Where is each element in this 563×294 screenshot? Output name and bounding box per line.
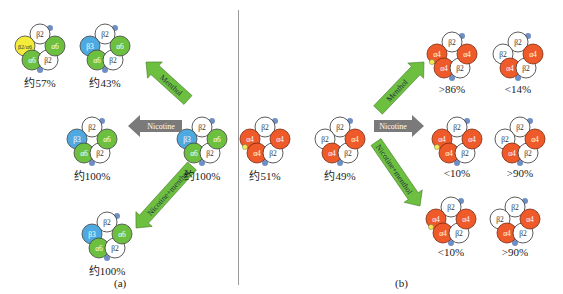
nicotine-arrow-a: Nicotine (128, 115, 182, 137)
subunit-label: β3 (73, 135, 81, 144)
subunit-label: α6 (80, 149, 88, 158)
nicotine-arrow-a-label: Nicotine (147, 122, 175, 131)
subunit-label: α4 (526, 215, 534, 224)
subunit-label: β2 (336, 123, 344, 132)
receptor-a-bottom: β2β3α6β2α6 (82, 212, 132, 261)
percent-label-b-left-1: 约51% (235, 167, 295, 183)
subunit-label: β2 (36, 30, 44, 39)
subunit-label: β2 (511, 203, 519, 212)
receptor-a-mid-left: β2β3α6β2α6 (67, 117, 117, 166)
percent-label-a-bottom: 约100% (77, 262, 137, 278)
ligand-dot-icon (434, 144, 439, 149)
percent-label-a-top-2: 约43% (75, 74, 135, 90)
subunit-label: α4 (328, 149, 336, 158)
subunit-label: β2 (501, 135, 509, 144)
subunit-label: α4 (463, 50, 471, 59)
panel-label-b: (b) (395, 277, 408, 289)
percent-label-b-top-1: >86% (422, 83, 482, 95)
subunit-label: β3 (183, 135, 191, 144)
subunit-label: β2 (88, 123, 96, 132)
percent-label-a-mid-left: 约100% (62, 167, 122, 183)
subunit-label: β2 (499, 50, 507, 59)
percent-label-b-top-2: <14% (488, 83, 548, 95)
subunit-label: α4 (508, 149, 516, 158)
subunit-label: α4 (529, 50, 537, 59)
subunit-label: β2 (461, 149, 469, 158)
subunit-label: α4 (445, 149, 453, 158)
subunit-label: β2 (514, 38, 522, 47)
subunit-label: β2 (198, 123, 206, 132)
subunit-label: α4 (433, 50, 441, 59)
subunit-label: β2 (321, 135, 329, 144)
subunit-label: α4 (438, 135, 446, 144)
subunit-label: β2 (524, 149, 532, 158)
subunit-label: α6 (51, 42, 59, 51)
subunit-label: α4 (351, 135, 359, 144)
subunit-label: β2 (447, 203, 455, 212)
nicotine-arrow-b: Nicotine (374, 115, 424, 137)
percent-label-b-bot-1: <10% (421, 246, 481, 258)
subunit-label: β2 (516, 123, 524, 132)
subunit-label: α6 (103, 135, 111, 144)
menthol-arrow-a: Menthol (139, 54, 196, 108)
subunit-label: β2 (109, 56, 117, 65)
subunit-label: β2 (269, 149, 277, 158)
subunit-label: β2 (206, 149, 214, 158)
subunit-label: α4 (253, 149, 261, 158)
nicotine-menthol-arrow-b-label: Nicotine+menthol (374, 143, 415, 197)
subunit-label: β2 (496, 215, 504, 224)
percent-label-b-mid-1: <10% (427, 167, 487, 179)
subunit-label: α6 (28, 56, 36, 65)
subunit-label: β2 (453, 123, 461, 132)
subunit-label: α6 (95, 244, 103, 253)
receptor-a-mid-right: β2β3α6β2α6 (177, 117, 227, 166)
subunit-label: β2 (101, 30, 109, 39)
subunit-label: α4 (439, 229, 447, 238)
subunit-label: α4 (506, 64, 514, 73)
subunit-label: α4 (276, 135, 284, 144)
subunit-label: α6 (213, 135, 221, 144)
subunit-label: β2 (456, 64, 464, 73)
receptor-b-top-1: β2α4α4β2α4 (427, 32, 477, 81)
diagram-stage: β2β2/α6α6β2α6β2β3α6β2α6β2β3α6β2α6β2β3α6β… (0, 0, 563, 294)
subunit-label: α4 (468, 135, 476, 144)
nicotine-arrow-b-label: Nicotine (379, 122, 407, 131)
subunit-label: α6 (116, 42, 124, 51)
subunit-label: β2 (261, 123, 269, 132)
subunit-label: α6 (190, 149, 198, 158)
subunit-label: β2 (448, 38, 456, 47)
receptor-b-bot-1: β2α4α4β2α4 (426, 197, 476, 246)
subunit-label: α4 (462, 215, 470, 224)
percent-label-b-left-2: 约49% (310, 167, 370, 183)
subunit-label: α4 (440, 64, 448, 73)
receptor-b-top-2: β2β2α4β2α4 (493, 32, 543, 81)
receptor-b-bot-2: β2β2α4β2α4 (490, 197, 540, 246)
ligand-dot-icon (242, 144, 247, 149)
ligand-dot-icon (429, 59, 434, 64)
receptor-b-mid-2: β2β2α4β2α4 (495, 117, 545, 166)
subunit-label: β2 (344, 149, 352, 158)
subunit-label: β3 (86, 42, 94, 51)
panel-label-a: (a) (114, 277, 126, 289)
percent-label-b-bot-2: >90% (485, 246, 545, 258)
percent-label-a-mid-right: 约100% (172, 167, 232, 183)
subunit-label: α6 (118, 230, 126, 239)
subunit-label: β2 (519, 229, 527, 238)
subunit-label: β2/α6 (18, 44, 32, 50)
nicotine-menthol-arrow-b: Nicotine+menthol (367, 136, 429, 212)
subunit-label: β2 (103, 218, 111, 227)
subunit-label: β2 (522, 64, 530, 73)
subunit-label: β2 (111, 244, 119, 253)
subunit-label: α6 (93, 56, 101, 65)
panel-divider (238, 10, 239, 285)
receptor-b-mid-1: β2α4α4β2α4 (432, 117, 482, 166)
subunit-label: α4 (246, 135, 254, 144)
subunit-label: α4 (503, 229, 511, 238)
subunit-label: α4 (432, 215, 440, 224)
receptor-a-top-1: β2β2/α6α6β2α6 (15, 24, 65, 73)
subunit-label: β3 (88, 230, 96, 239)
ligand-dot-icon (428, 224, 433, 229)
subunit-label: β2 (96, 149, 104, 158)
receptor-b-left-1: β2α4α4β2α4 (240, 117, 290, 166)
subunit-label: β2 (44, 56, 52, 65)
